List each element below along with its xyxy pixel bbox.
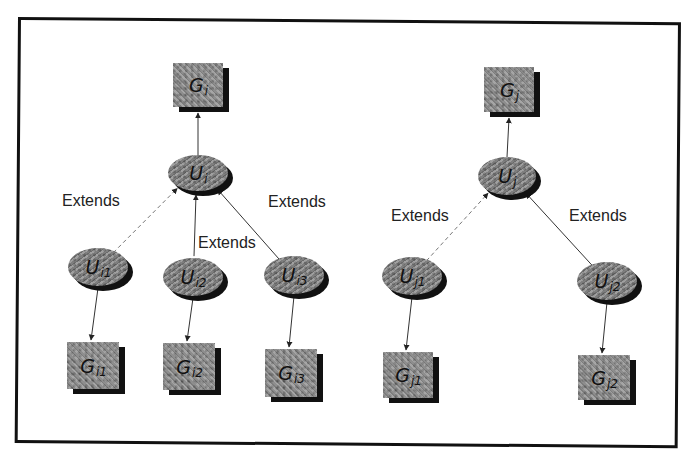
user-root-node: Uj (478, 157, 536, 195)
group-node: Gi3 (265, 349, 317, 397)
edge-user-to-group (602, 302, 607, 353)
group-root-node-subscript: i (205, 84, 208, 98)
group-node-symbol: G (278, 362, 293, 384)
user-root-node-subscript: i (204, 172, 207, 186)
group-root-node-symbol: G (189, 74, 204, 96)
group-node: Gi1 (67, 342, 119, 389)
user-class-node-symbol: U (595, 270, 609, 292)
user-class-node-subscript: j2 (609, 280, 620, 294)
user-class-node-subscript: j1 (414, 275, 425, 289)
edge-user-to-group (91, 288, 98, 340)
group-root-node: Gi (173, 63, 223, 107)
user-class-node-subscript: i2 (195, 276, 206, 290)
group-node: Gj1 (383, 352, 433, 398)
group-node-subscript: i3 (294, 372, 305, 386)
edges-layer (91, 113, 607, 353)
user-class-node: Uj1 (382, 257, 442, 295)
group-node-subscript: j1 (411, 374, 422, 388)
user-class-node-symbol: U (282, 264, 296, 286)
user-class-node-symbol: U (400, 265, 414, 287)
user-class-node-symbol: U (86, 256, 100, 278)
user-root-node-symbol: U (189, 162, 203, 184)
extends-label: Extends (268, 193, 326, 211)
user-class-node-symbol: U (181, 266, 195, 288)
edge-user-to-group (187, 298, 193, 341)
user-class-node: Ui1 (68, 248, 128, 286)
user-class-node-subscript: i3 (296, 274, 307, 288)
group-node-subscript: j2 (607, 377, 618, 391)
group-node-symbol: G (80, 355, 95, 377)
edge-user-to-group (289, 296, 294, 347)
group-node-symbol: G (395, 364, 410, 386)
group-root-node: Gj (484, 67, 534, 112)
edge-extends (194, 195, 196, 256)
extends-label: Extends (391, 207, 449, 225)
extends-label: Extends (198, 234, 256, 252)
edge-extends (426, 193, 488, 261)
group-root-node-subscript: j (516, 89, 519, 103)
edge-user-to-group (406, 297, 412, 350)
extends-label: Extends (62, 192, 120, 210)
group-node-symbol: G (176, 356, 191, 378)
edge-user-root-to-group-root (507, 118, 509, 157)
group-node: Gj2 (578, 355, 630, 400)
user-class-node: Ui3 (264, 256, 324, 294)
user-root-node-subscript: j (513, 175, 516, 189)
group-node-symbol: G (591, 367, 606, 389)
edge-extends (113, 188, 177, 252)
edge-extends (526, 193, 593, 266)
user-class-node: Ui2 (163, 258, 223, 296)
user-root-node: Ui (168, 155, 228, 191)
group-node: Gi2 (163, 343, 215, 390)
user-class-node: Uj2 (577, 262, 637, 300)
user-root-node-symbol: U (498, 165, 512, 187)
extends-label: Extends (569, 207, 627, 225)
group-root-node-symbol: G (500, 79, 515, 101)
group-node-subscript: i2 (192, 366, 203, 380)
user-class-node-subscript: i1 (100, 266, 111, 280)
group-node-subscript: i1 (96, 365, 107, 379)
